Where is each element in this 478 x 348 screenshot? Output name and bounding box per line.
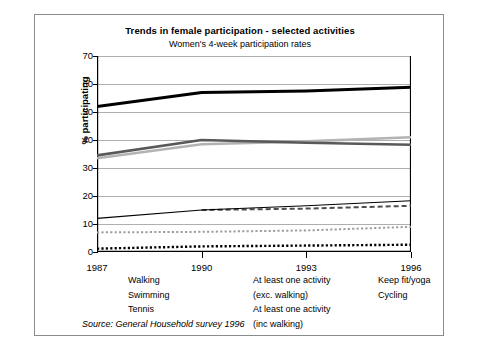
series-line-cycling xyxy=(97,227,411,233)
y-tick-label: 30 xyxy=(67,163,93,173)
x-tick-label: 1993 xyxy=(286,263,326,273)
y-tick-mark xyxy=(93,252,98,253)
x-tick-label: 1987 xyxy=(77,263,117,273)
y-tick-label: 70 xyxy=(67,51,93,61)
legend-label: Keep fit/yoga xyxy=(378,273,431,288)
series-line-tennis xyxy=(97,245,411,249)
y-tick-label: 50 xyxy=(67,107,93,117)
legend-label: At least one activity xyxy=(253,273,331,288)
source-note: Source: General Household survey 1996 xyxy=(82,319,245,329)
line-chart-svg xyxy=(97,56,411,252)
series-line-at-least-one-activity-inc-walking xyxy=(97,87,411,106)
legend-label: Walking xyxy=(128,273,160,288)
x-tick-label: 1990 xyxy=(182,263,222,273)
x-tick-mark xyxy=(411,252,412,258)
x-tick-mark xyxy=(306,252,307,258)
y-tick-label: 10 xyxy=(67,219,93,229)
y-axis-ticks: 010203040506070 xyxy=(61,56,93,252)
legend-label: At least one activity xyxy=(253,302,331,317)
plot-canvas xyxy=(97,56,411,252)
x-tick-label: 1996 xyxy=(391,263,431,273)
legend-label: Cycling xyxy=(378,288,408,303)
y-tick-label: 40 xyxy=(67,135,93,145)
chart-figure: Trends in female participation - selecte… xyxy=(34,14,444,336)
x-axis-ticks: 1987199019931996 xyxy=(97,258,411,272)
chart-legend: WalkingSwimmingTennisAt least one activi… xyxy=(82,273,437,319)
legend-label: Swimming xyxy=(128,288,170,303)
y-tick-label: 0 xyxy=(67,247,93,257)
x-tick-mark xyxy=(202,252,203,258)
y-tick-label: 20 xyxy=(67,191,93,201)
legend-label-continued: (exc. walking) xyxy=(253,288,308,303)
legend-label-continued: (inc walking) xyxy=(253,317,303,332)
y-tick-label: 60 xyxy=(67,79,93,89)
series-line-swimming xyxy=(202,206,411,210)
legend-label: Tennis xyxy=(128,302,154,317)
